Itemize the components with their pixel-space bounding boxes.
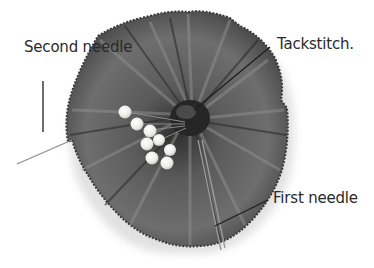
label-first-needle: First needle (273, 188, 358, 208)
label-tackstitch: Tackstitch. (277, 34, 354, 54)
pin-head (153, 134, 165, 146)
second-needle (17, 140, 72, 164)
annotated-figure: Second needle Tackstitch. First needle (0, 0, 374, 268)
pin-head (131, 118, 144, 131)
label-second-needle: Second needle (24, 37, 84, 57)
flower-center-highlight (176, 105, 196, 119)
pin-head (146, 152, 159, 165)
pin-head (141, 138, 154, 151)
pin-head (164, 144, 176, 156)
pin-head (119, 106, 132, 119)
pin-head (144, 125, 157, 138)
pin-head (161, 157, 174, 170)
